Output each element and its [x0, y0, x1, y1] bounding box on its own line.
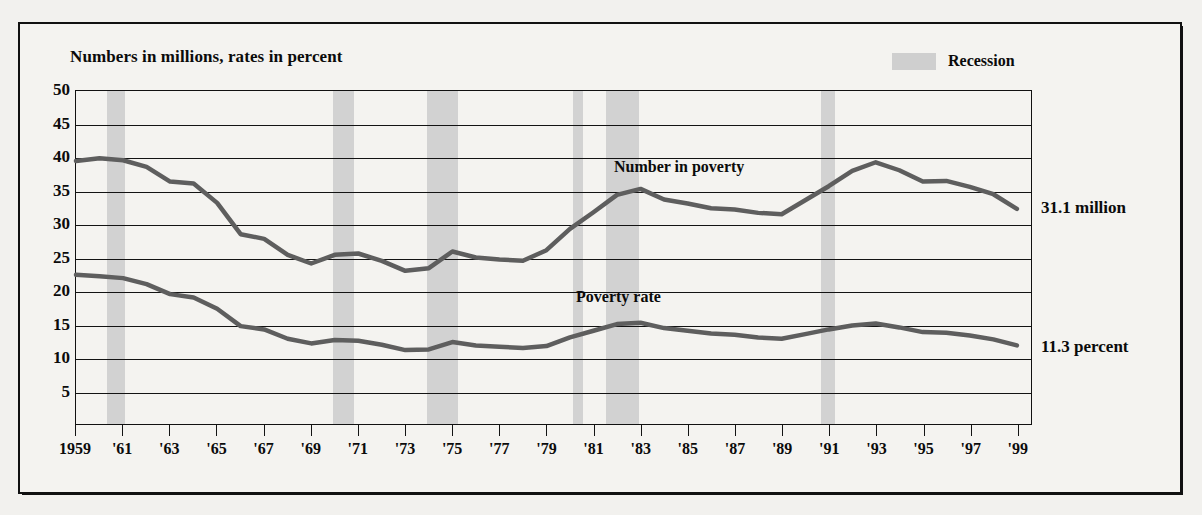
x-tick-label: '63 — [159, 440, 179, 458]
x-tick-label: '81 — [583, 440, 603, 458]
x-tick-label: '93 — [866, 440, 886, 458]
x-tick-label: '71 — [348, 440, 368, 458]
series-lines — [76, 91, 1031, 424]
y-tick-label: 5 — [28, 382, 70, 402]
x-tick — [688, 425, 689, 436]
x-tick — [122, 425, 123, 436]
x-tick — [641, 425, 642, 436]
x-tick — [75, 425, 76, 436]
series-line-poverty-rate — [76, 275, 1017, 350]
x-tick-label: 1959 — [59, 440, 91, 458]
x-tick-label: '85 — [678, 440, 698, 458]
x-tick-label: '91 — [819, 440, 839, 458]
recession-legend-label: Recession — [948, 52, 1015, 70]
x-tick-label: '99 — [1008, 440, 1028, 458]
x-tick — [405, 425, 406, 436]
y-tick-label: 10 — [28, 348, 70, 368]
x-tick — [924, 425, 925, 436]
x-tick-label: '83 — [630, 440, 650, 458]
x-tick — [876, 425, 877, 436]
x-tick — [358, 425, 359, 436]
x-tick — [546, 425, 547, 436]
legend: Recession — [892, 52, 1015, 70]
x-tick — [971, 425, 972, 436]
y-tick-label: 30 — [28, 214, 70, 234]
chart-page: Numbers in millions, rates in percent Re… — [0, 0, 1202, 515]
x-tick — [264, 425, 265, 436]
x-tick — [594, 425, 595, 436]
x-tick-label: '87 — [725, 440, 745, 458]
x-tick — [735, 425, 736, 436]
end-label-poverty-rate: 11.3 percent — [1041, 337, 1129, 357]
x-axis-ticks — [75, 425, 1032, 437]
y-tick-label: 45 — [28, 114, 70, 134]
y-tick-label: 25 — [28, 248, 70, 268]
x-tick-label: '79 — [536, 440, 556, 458]
y-axis-labels: 5045403530252015105 — [22, 90, 70, 425]
x-tick-label: '67 — [253, 440, 273, 458]
x-tick — [1018, 425, 1019, 436]
y-tick-label: 20 — [28, 281, 70, 301]
x-tick-label: '77 — [489, 440, 509, 458]
y-tick-label: 40 — [28, 147, 70, 167]
x-tick — [829, 425, 830, 436]
x-tick-label: '97 — [960, 440, 980, 458]
series-label-number-in-poverty: Number in poverty — [614, 158, 744, 176]
x-tick-label: '95 — [913, 440, 933, 458]
x-axis-labels: 1959'61'63'65'67'69'71'73'75'77'79'81'83… — [75, 440, 1032, 464]
plot-area — [75, 90, 1032, 425]
series-label-poverty-rate: Poverty rate — [576, 288, 661, 306]
x-tick-label: '61 — [112, 440, 132, 458]
x-tick-label: '75 — [442, 440, 462, 458]
x-tick — [452, 425, 453, 436]
x-tick-label: '89 — [772, 440, 792, 458]
x-tick — [782, 425, 783, 436]
x-tick — [311, 425, 312, 436]
x-tick — [216, 425, 217, 436]
x-tick-label: '65 — [206, 440, 226, 458]
recession-legend-swatch — [892, 53, 936, 70]
x-tick — [499, 425, 500, 436]
series-line-number-in-poverty — [76, 158, 1017, 271]
y-tick-label: 15 — [28, 315, 70, 335]
y-tick-label: 35 — [28, 181, 70, 201]
x-tick-label: '73 — [395, 440, 415, 458]
x-tick — [169, 425, 170, 436]
x-tick-label: '69 — [300, 440, 320, 458]
chart-title: Numbers in millions, rates in percent — [70, 47, 343, 67]
end-label-number-in-poverty: 31.1 million — [1041, 198, 1126, 218]
y-tick-label: 50 — [28, 80, 70, 100]
